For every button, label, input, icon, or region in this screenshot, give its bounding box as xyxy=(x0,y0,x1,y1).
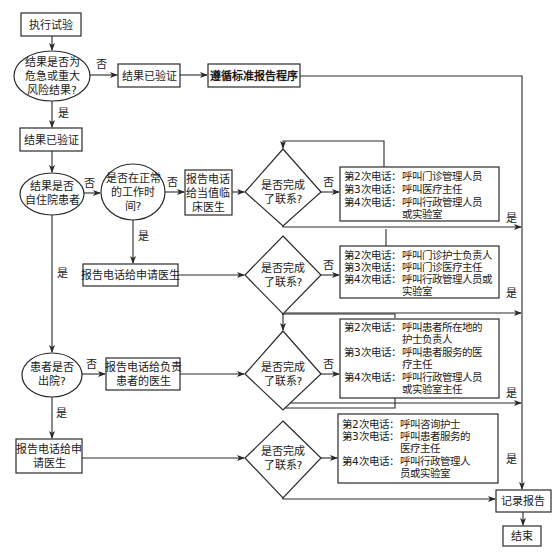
svg-text:报告电话给负责: 报告电话给负责 xyxy=(105,360,182,374)
node-escalation-1: 第2次电话： 呼叫门诊管理人员 第3次电话： 呼叫医疗主任 第4次电话： 呼叫行… xyxy=(340,167,499,221)
svg-text:第4次电话：: 第4次电话： xyxy=(342,455,399,467)
node-end: 结束 xyxy=(503,526,541,546)
label-no: 否 xyxy=(167,176,178,189)
svg-text:间?: 间? xyxy=(125,200,142,213)
flowchart-canvas: 否 是 否 否 是 是 否 是 否 否 否 是 是 是 是 执行试验 结果是否为… xyxy=(0,0,559,558)
label-yes: 是 xyxy=(506,212,517,225)
label-no: 否 xyxy=(323,176,334,189)
node-call-responsible: 报告电话给负责 患者的医生 xyxy=(105,358,182,390)
node-decision-2: 是否完成 了联系? xyxy=(245,236,321,314)
svg-text:报告电话: 报告电话 xyxy=(186,172,230,186)
svg-text:报告电话给申请医生: 报告电话给申请医生 xyxy=(81,268,180,282)
svg-text:是否完成: 是否完成 xyxy=(261,444,305,458)
node-verified-right: 结果已验证 xyxy=(118,64,180,87)
svg-text:呼叫门诊医疗主任: 呼叫门诊医疗主任 xyxy=(402,261,483,273)
svg-text:第3次电话：: 第3次电话： xyxy=(344,183,401,195)
node-escalation-2: 第2次电话： 呼叫门诊护士负责人 第3次电话： 呼叫门诊医疗主任 第4次电话： … xyxy=(340,246,499,298)
svg-text:第4次电话：: 第4次电话： xyxy=(344,273,401,285)
node-decision-4: 是否完成 了联系? xyxy=(245,421,321,498)
svg-text:患者的医生: 患者的医生 xyxy=(116,374,171,388)
svg-text:呼叫患者服务的医: 呼叫患者服务的医 xyxy=(402,346,482,358)
svg-text:了联系?: 了联系? xyxy=(264,276,303,289)
label-no: 否 xyxy=(86,358,97,371)
svg-text:是否在正常: 是否在正常 xyxy=(106,172,161,185)
node-decision-1: 是否完成 了联系? xyxy=(245,149,321,226)
svg-text:风险结果?: 风险结果? xyxy=(27,83,77,97)
edge-esc1-loop xyxy=(283,141,384,167)
svg-text:呼叫行政管理人员或: 呼叫行政管理人员或 xyxy=(402,273,493,285)
svg-text:结果是否: 结果是否 xyxy=(30,180,74,193)
node-decision-3: 是否完成 了联系? xyxy=(245,331,321,410)
svg-text:是否完成: 是否完成 xyxy=(261,178,305,192)
svg-text:呼叫患者服务的: 呼叫患者服务的 xyxy=(400,430,470,442)
svg-text:第4次电话：: 第4次电话： xyxy=(344,371,401,383)
svg-text:第2次电话：: 第2次电话： xyxy=(344,170,401,182)
node-workhours-question: 是否在正常 的工作时 间? xyxy=(101,164,165,220)
svg-text:第3次电话：: 第3次电话： xyxy=(342,430,399,442)
svg-text:第2次电话：: 第2次电话： xyxy=(344,249,401,261)
svg-text:了联系?: 了联系? xyxy=(264,459,303,472)
svg-text:呼叫医疗主任: 呼叫医疗主任 xyxy=(402,183,463,195)
node-start: 执行试验 xyxy=(21,13,81,36)
label-yes: 是 xyxy=(57,267,68,280)
label-yes: 是 xyxy=(506,387,517,400)
svg-text:床医生: 床医生 xyxy=(192,200,225,214)
svg-text:自住院患者: 自住院患者 xyxy=(25,193,80,207)
svg-text:结果是否为: 结果是否为 xyxy=(25,56,80,69)
label-yes: 是 xyxy=(506,287,517,300)
svg-text:第2次电话：: 第2次电话： xyxy=(344,321,401,333)
label-yes: 是 xyxy=(56,407,67,420)
label-no: 否 xyxy=(323,259,334,272)
svg-text:或实验室主任: 或实验室主任 xyxy=(402,383,463,395)
svg-text:第2次电话：: 第2次电话： xyxy=(342,418,399,430)
svg-text:第3次电话：: 第3次电话： xyxy=(344,261,401,273)
svg-text:呼叫咨询护士: 呼叫咨询护士 xyxy=(400,418,460,430)
svg-text:员或实验室: 员或实验室 xyxy=(400,467,450,479)
label-no: 否 xyxy=(84,177,95,190)
svg-text:呼叫行政管理人: 呼叫行政管理人 xyxy=(400,455,471,467)
node-escalation-4: 第2次电话： 呼叫咨询护士 第3次电话： 呼叫患者服务的 医疗主任 第4次电话：… xyxy=(338,414,498,483)
svg-text:的工作时: 的工作时 xyxy=(111,185,155,199)
node-call-requester-bottom: 报告电话给申 请医生 xyxy=(16,439,82,473)
label-no: 否 xyxy=(323,358,334,371)
svg-text:呼叫门诊管理人员: 呼叫门诊管理人员 xyxy=(402,170,482,182)
svg-text:出院?: 出院? xyxy=(38,374,66,388)
svg-text:医疗主任: 医疗主任 xyxy=(400,442,441,454)
node-escalation-3: 第2次电话： 呼叫患者所在地的 护士负责人 第3次电话： 呼叫患者服务的医 疗主… xyxy=(340,319,499,398)
svg-text:患者是否: 患者是否 xyxy=(30,361,74,374)
node-verified-left: 结果已验证 xyxy=(20,128,82,151)
node-call-oncall: 报告电话 给当值临 床医生 xyxy=(185,170,232,215)
svg-text:实验室: 实验室 xyxy=(402,285,432,297)
svg-text:执行试验: 执行试验 xyxy=(29,18,73,32)
edge-d1-yes xyxy=(283,225,521,227)
node-call-requester-mid: 报告电话给申请医生 xyxy=(81,264,180,286)
svg-text:或实验室: 或实验室 xyxy=(402,208,442,220)
svg-text:结束: 结束 xyxy=(511,530,533,543)
svg-text:第3次电话：: 第3次电话： xyxy=(344,346,401,358)
edge-d4-yes xyxy=(283,497,495,499)
svg-text:疗主任: 疗主任 xyxy=(402,358,433,370)
svg-text:报告电话给申: 报告电话给申 xyxy=(16,442,82,456)
label-yes: 是 xyxy=(506,453,517,466)
svg-text:是否完成: 是否完成 xyxy=(261,261,305,275)
node-standard-report: 遵循标准报告程序 xyxy=(208,64,300,87)
svg-text:呼叫行政管理人员: 呼叫行政管理人员 xyxy=(402,371,482,383)
svg-text:护士负责人: 护士负责人 xyxy=(402,333,453,345)
svg-text:请医生: 请医生 xyxy=(33,456,66,470)
svg-text:给当值临: 给当值临 xyxy=(186,186,230,200)
node-discharged-question: 患者是否 出院? xyxy=(22,353,82,397)
svg-text:呼叫门诊护士负责人: 呼叫门诊护士负责人 xyxy=(402,249,493,261)
svg-text:了联系?: 了联系? xyxy=(264,193,303,206)
svg-text:记录报告: 记录报告 xyxy=(501,494,545,508)
svg-text:呼叫患者所在地的: 呼叫患者所在地的 xyxy=(402,321,482,333)
node-critical-question: 结果是否为 危急或重大 风险结果? xyxy=(14,51,90,101)
label-yes: 是 xyxy=(138,230,149,243)
svg-text:结果已验证: 结果已验证 xyxy=(24,133,79,147)
svg-text:了联系?: 了联系? xyxy=(264,375,303,388)
label-yes: 是 xyxy=(58,107,69,120)
node-record-report: 记录报告 xyxy=(496,490,551,512)
svg-text:呼叫行政管理人员: 呼叫行政管理人员 xyxy=(402,196,482,208)
svg-text:是否完成: 是否完成 xyxy=(261,360,305,374)
svg-text:危急或重大: 危急或重大 xyxy=(25,69,80,83)
svg-text:第4次电话：: 第4次电话： xyxy=(344,196,401,208)
